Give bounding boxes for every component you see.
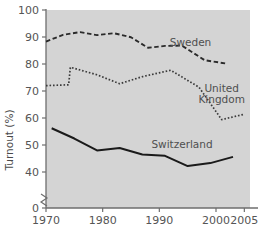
y-tick-label: 100: [18, 4, 39, 17]
x-tick-label: 2000: [202, 214, 230, 227]
x-tick-label: 1980: [89, 214, 117, 227]
series-label-line: Kingdom: [198, 93, 244, 105]
y-tick-label: 40: [25, 166, 39, 179]
x-tick-label: 2005: [230, 214, 258, 227]
y-tick-label: 70: [25, 85, 39, 98]
plot-background-group: [46, 10, 250, 208]
chart-canvas: 040506070809010019701980199020002005 Swe…: [0, 0, 269, 232]
series-label-united-kingdom: UnitedKingdom: [198, 82, 244, 105]
y-tick-label: 90: [25, 31, 39, 44]
series-label-line: Switzerland: [151, 138, 212, 150]
series-label-sweden: Sweden: [170, 36, 212, 48]
y-axis-title-group: Turnout (%): [3, 110, 15, 172]
y-tick-label: 80: [25, 58, 39, 71]
series-label-line: Sweden: [170, 36, 212, 48]
x-tick-label: 1990: [145, 214, 173, 227]
y-tick-label: 50: [25, 139, 39, 152]
plot-background: [46, 10, 250, 208]
turnout-line-chart: 040506070809010019701980199020002005 Swe…: [0, 0, 269, 232]
series-label-switzerland: Switzerland: [151, 138, 212, 150]
y-axis-title: Turnout (%): [3, 110, 15, 172]
y-tick-label: 60: [25, 112, 39, 125]
x-tick-label: 1970: [32, 214, 60, 227]
